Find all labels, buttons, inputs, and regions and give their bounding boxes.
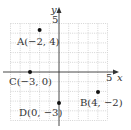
- point-b-label: B(4, −2): [80, 97, 123, 108]
- y-axis-arrow-icon: [57, 7, 62, 13]
- coordinate-plane: y 5 5 x A(−2, 4) B(4, −2) C(−3, 0) D(0, …: [0, 0, 131, 130]
- point-a-label: A(−2, 4): [16, 36, 60, 47]
- point-b: [96, 90, 100, 94]
- point-d: [57, 101, 61, 105]
- point-a: [38, 28, 42, 32]
- point-c-label: C(−3, 0): [9, 76, 52, 87]
- x-tick-label: 5: [106, 72, 112, 83]
- x-axis-label: x: [117, 72, 123, 83]
- y-tick-label: 5: [52, 14, 58, 25]
- point-c: [28, 70, 32, 74]
- point-d-label: D(0, −3): [19, 107, 62, 118]
